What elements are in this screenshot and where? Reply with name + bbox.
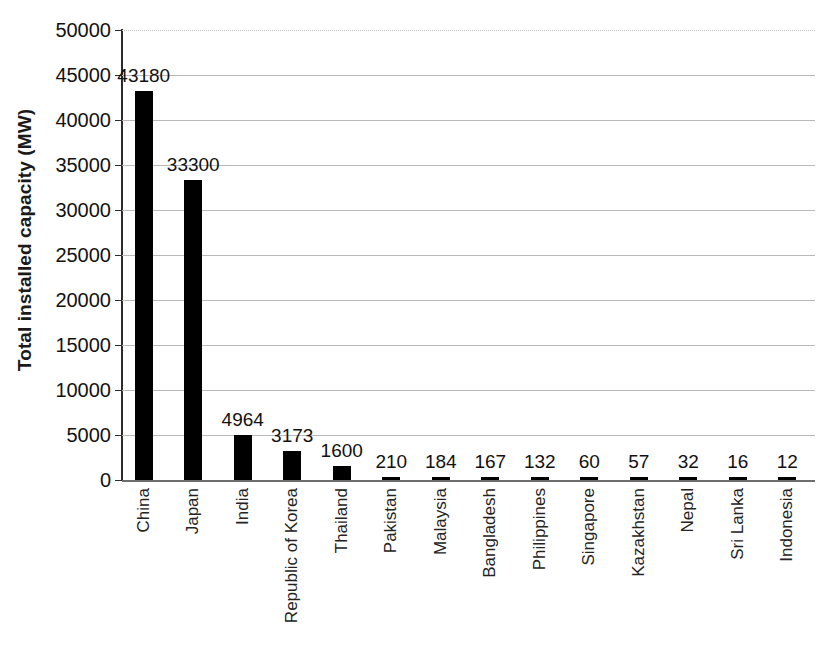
y-tick-label: 40000 <box>55 109 111 132</box>
x-category-label: Malaysia <box>431 488 451 658</box>
bar[interactable] <box>184 180 202 480</box>
gridline <box>122 255 815 256</box>
gridline <box>122 165 815 166</box>
y-tick-label: 0 <box>100 469 111 492</box>
bar-value-label: 43180 <box>117 65 170 87</box>
y-tick-mark <box>115 30 122 31</box>
bar[interactable] <box>432 477 450 480</box>
y-tick-mark <box>115 390 122 391</box>
bar[interactable] <box>234 435 252 480</box>
x-category-label: Pakistan <box>381 488 401 658</box>
y-tick-label: 35000 <box>55 154 111 177</box>
bar[interactable] <box>135 91 153 480</box>
y-tick-mark <box>115 120 122 121</box>
bar-value-label: 167 <box>474 451 506 473</box>
bar-value-label: 33300 <box>167 154 220 176</box>
bar[interactable] <box>531 477 549 480</box>
gridline <box>122 120 815 121</box>
bar-value-label: 3173 <box>271 425 313 447</box>
y-tick-mark <box>115 345 122 346</box>
x-axis-line <box>122 480 815 482</box>
y-tick-label: 25000 <box>55 244 111 267</box>
y-tick-label: 30000 <box>55 199 111 222</box>
y-axis-title: Total installed capacity (MW) <box>8 0 42 480</box>
gridline <box>122 210 815 211</box>
y-tick-label: 15000 <box>55 334 111 357</box>
gridline <box>122 390 815 391</box>
gridline <box>122 300 815 301</box>
y-tick-mark <box>115 435 122 436</box>
bar-value-label: 57 <box>628 451 649 473</box>
bar-value-label: 1600 <box>321 440 363 462</box>
bar[interactable] <box>630 477 648 480</box>
y-tick-mark <box>115 165 122 166</box>
y-tick-mark <box>115 480 122 481</box>
y-tick-label: 45000 <box>55 64 111 87</box>
bar-value-label: 4964 <box>222 409 264 431</box>
y-tick-label: 10000 <box>55 379 111 402</box>
bar-value-label: 16 <box>727 451 748 473</box>
bar[interactable] <box>283 451 301 480</box>
x-category-label: Bangladesh <box>480 488 500 658</box>
bar-value-label: 60 <box>579 451 600 473</box>
x-category-label: China <box>134 488 154 658</box>
y-tick-label: 5000 <box>67 424 112 447</box>
y-tick-mark <box>115 255 122 256</box>
bar-value-label: 210 <box>375 451 407 473</box>
gridline <box>122 75 815 76</box>
bar-value-label: 132 <box>524 451 556 473</box>
y-tick-mark <box>115 300 122 301</box>
bar-value-label: 32 <box>678 451 699 473</box>
bar[interactable] <box>382 477 400 480</box>
bar[interactable] <box>333 466 351 480</box>
bar-value-label: 12 <box>777 451 798 473</box>
x-category-label: Republic of Korea <box>282 488 302 658</box>
y-tick-label: 50000 <box>55 19 111 42</box>
bar[interactable] <box>679 477 697 480</box>
gridline <box>122 30 815 31</box>
x-category-label: Singapore <box>579 488 599 658</box>
gridline <box>122 345 815 346</box>
bar-chart: Total installed capacity (MW) 5000045000… <box>0 0 835 664</box>
bar[interactable] <box>729 477 747 480</box>
gridline <box>122 435 815 436</box>
x-category-label: Nepal <box>678 488 698 658</box>
x-category-label: Japan <box>183 488 203 658</box>
x-category-label: Indonesia <box>777 488 797 658</box>
x-category-label: Philippines <box>530 488 550 658</box>
x-category-label: Thailand <box>332 488 352 658</box>
bar-value-label: 184 <box>425 451 457 473</box>
plot-area: 5000045000400003500030000250002000015000… <box>122 30 815 480</box>
bar[interactable] <box>481 477 499 480</box>
x-category-label: India <box>233 488 253 658</box>
y-tick-mark <box>115 210 122 211</box>
bar[interactable] <box>580 477 598 480</box>
x-category-label: Sri Lanka <box>728 488 748 658</box>
y-tick-label: 20000 <box>55 289 111 312</box>
bar[interactable] <box>778 477 796 480</box>
x-category-label: Kazakhstan <box>629 488 649 658</box>
